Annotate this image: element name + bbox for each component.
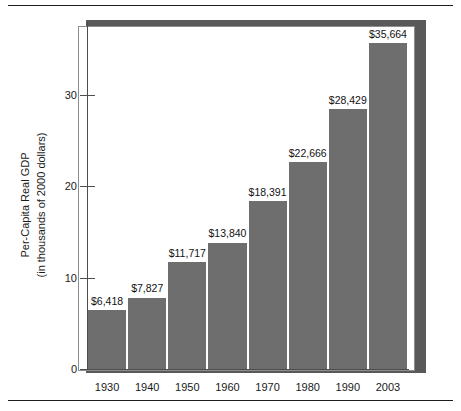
bar[interactable]	[249, 201, 287, 369]
bar-value-label: $13,840	[208, 228, 246, 239]
bar[interactable]	[128, 298, 166, 369]
bar[interactable]	[369, 43, 407, 369]
x-tick-label: 1990	[336, 382, 360, 393]
bar[interactable]	[88, 310, 126, 369]
y-axis-title: Per-Capita Real GDP (in thousands of 200…	[16, 100, 52, 310]
bar-value-label: $18,391	[249, 187, 287, 198]
bar-value-label: $22,666	[289, 148, 327, 159]
chart-figure: 0102030 $6,4181930$7,8271940$11,7171950$…	[78, 18, 426, 373]
bar-value-label: $35,664	[369, 29, 407, 40]
bar-group[interactable]: $13,8401960	[208, 22, 246, 369]
bar-group[interactable]: $18,3911970	[249, 22, 287, 369]
bar[interactable]	[329, 109, 367, 369]
bar-group[interactable]: $22,6661980	[289, 22, 327, 369]
bar-value-label: $7,827	[131, 283, 163, 294]
y-tick-label: 10	[65, 272, 77, 283]
bar-series: $6,4181930$7,8271940$11,7171950$13,84019…	[88, 22, 409, 370]
plot-area: 0102030 $6,4181930$7,8271940$11,7171950$…	[87, 22, 409, 363]
bar-value-label: $28,429	[329, 95, 367, 106]
y-tick-label: 0	[71, 364, 77, 375]
bar-group[interactable]: $6,4181930	[88, 22, 126, 369]
page-rule-bottom	[8, 400, 453, 401]
y-tick-label: 20	[65, 181, 77, 192]
y-tick-label: 30	[65, 90, 77, 101]
bar[interactable]	[168, 262, 206, 369]
y-axis-title-line2: (in thousands of 2000 dollars)	[35, 133, 47, 278]
x-tick-label: 1980	[295, 382, 319, 393]
x-tick-label: 1930	[95, 382, 119, 393]
bar[interactable]	[208, 243, 246, 369]
y-axis-title-line1: Per-Capita Real GDP	[19, 152, 31, 257]
bar-group[interactable]: $35,6642003	[369, 22, 407, 369]
x-tick-label: 1950	[175, 382, 199, 393]
bar-value-label: $11,717	[169, 248, 206, 259]
x-tick-label: 2003	[376, 382, 400, 393]
x-tick-label: 1960	[215, 382, 239, 393]
x-tick-label: 1940	[135, 382, 159, 393]
bar-group[interactable]: $7,8271940	[128, 22, 166, 369]
page-rule-top	[8, 5, 453, 6]
bar-group[interactable]: $11,7171950	[168, 22, 206, 369]
bar[interactable]	[289, 162, 327, 369]
bar-value-label: $6,418	[91, 296, 123, 307]
bar-group[interactable]: $28,4291990	[329, 22, 367, 369]
x-tick-label: 1970	[255, 382, 279, 393]
